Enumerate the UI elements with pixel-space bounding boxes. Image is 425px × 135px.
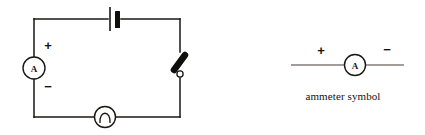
lamp-circle — [95, 107, 116, 128]
legend-ammeter-letter: A — [352, 61, 359, 71]
switch-icon — [174, 55, 185, 77]
lamp-icon — [95, 107, 116, 128]
ammeter-letter: A — [31, 64, 38, 74]
ammeter-minus-sign: − — [44, 79, 52, 94]
ammeter-symbol-legend: A + − — [291, 42, 404, 76]
legend-minus-sign: − — [383, 42, 391, 57]
circuit-diagram: A + − — [23, 7, 185, 128]
circuit-ammeter-icon: A + − — [23, 38, 52, 94]
physics-circuit-figure: A + − A + − ammeter symbo — [0, 0, 425, 135]
battery-short-plate — [115, 11, 120, 28]
switch-blade — [174, 55, 185, 70]
legend-caption: ammeter symbol — [288, 90, 398, 102]
switch-pivot-contact — [177, 71, 183, 77]
figure-canvas: A + − A + − — [0, 0, 425, 135]
legend-plus-sign: + — [317, 43, 325, 58]
battery-icon — [110, 7, 120, 31]
ammeter-plus-sign: + — [44, 38, 52, 53]
